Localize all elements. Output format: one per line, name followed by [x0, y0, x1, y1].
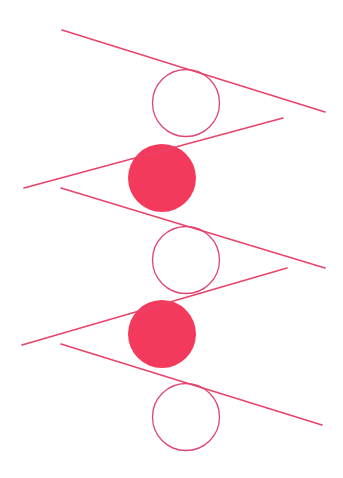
artwork-canvas — [0, 0, 343, 478]
circle-2-filled — [128, 144, 196, 212]
artboard — [0, 0, 343, 478]
canvas-background — [0, 0, 343, 478]
circle-4-filled — [128, 300, 196, 368]
